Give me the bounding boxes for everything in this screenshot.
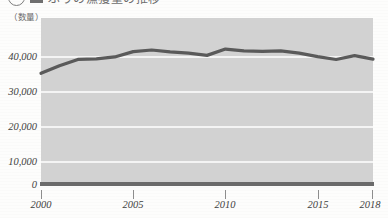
y-tick-label: 40,000 [8, 51, 37, 62]
x-tick-label: 2018 [360, 199, 381, 210]
zero-baseline-axis [40, 182, 374, 186]
series-line-harvest [41, 18, 373, 186]
x-tick-label: 2015 [308, 199, 329, 210]
y-tick-label: 10,000 [8, 156, 37, 167]
y-tick-label: 0 [32, 179, 37, 190]
x-tick-mark [372, 190, 373, 199]
figure-heading-text: ぶりの漁獲量の推移 [48, 0, 161, 6]
figure-heading-inner: 1 ぶりの漁獲量の推移 [8, 0, 161, 6]
y-axis-labels: 40,000 30,000 20,000 10,000 0 [0, 18, 37, 186]
heading-swatch-icon [30, 0, 43, 3]
y-tick-label: 20,000 [8, 121, 37, 132]
figure-heading: 1 ぶりの漁獲量の推移 [0, 0, 388, 11]
figure-page: 1 ぶりの漁獲量の推移 （数量） 40,000 30,000 20,000 10… [0, 0, 388, 218]
x-tick-mark [133, 190, 134, 199]
x-tick-mark [225, 190, 226, 199]
x-tick-label: 2010 [215, 199, 236, 210]
x-tick-label: 2000 [31, 199, 52, 210]
x-tick-mark [41, 190, 42, 199]
circled-number-icon: 1 [8, 0, 25, 6]
line-chart [41, 18, 373, 186]
y-tick-label: 30,000 [8, 86, 37, 97]
x-tick-label: 2005 [123, 199, 144, 210]
x-axis-labels: 2000 2005 2010 2015 2018 [41, 190, 373, 200]
x-tick-mark [318, 190, 319, 199]
